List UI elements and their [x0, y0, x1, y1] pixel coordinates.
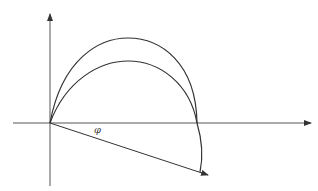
phi-label: φ: [94, 124, 101, 135]
inner-arc: [50, 61, 197, 123]
diagram-canvas: [0, 0, 318, 191]
phi-ray: [50, 123, 208, 175]
lower-arc: [197, 123, 202, 172]
